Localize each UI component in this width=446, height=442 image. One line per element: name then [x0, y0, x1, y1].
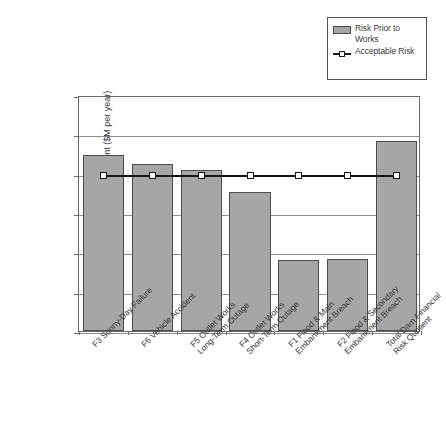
line-series-acceptable-risk: [79, 97, 419, 331]
legend-label-acceptable-risk: Acceptable Risk: [355, 46, 414, 57]
plot-area: Risk Quotient ($M per year) 1.E+001.E-01…: [78, 96, 420, 332]
bar-swatch-icon: [333, 26, 351, 34]
x-axis-labels: F3 Sunny-Day FailureF6 Vehicle AccidentF…: [78, 336, 420, 440]
acceptable-risk-marker: [149, 172, 156, 179]
x-tick-mark: [128, 331, 129, 335]
line-marker-swatch-icon: [333, 49, 351, 58]
acceptable-risk-marker: [100, 172, 107, 179]
acceptable-risk-marker: [344, 172, 351, 179]
chart-legend: Risk Prior to Works Acceptable Risk: [327, 17, 427, 80]
x-tick-mark: [177, 331, 178, 335]
x-tick-mark: [79, 331, 80, 335]
legend-entry-risk-prior-to-works: Risk Prior to Works: [333, 23, 422, 45]
acceptable-risk-marker: [295, 172, 302, 179]
legend-label-risk-prior-to-works: Risk Prior to Works: [355, 23, 422, 45]
acceptable-risk-marker: [393, 172, 400, 179]
acceptable-risk-marker: [198, 172, 205, 179]
acceptable-risk-marker: [247, 172, 254, 179]
legend-entry-acceptable-risk: Acceptable Risk: [333, 46, 422, 58]
